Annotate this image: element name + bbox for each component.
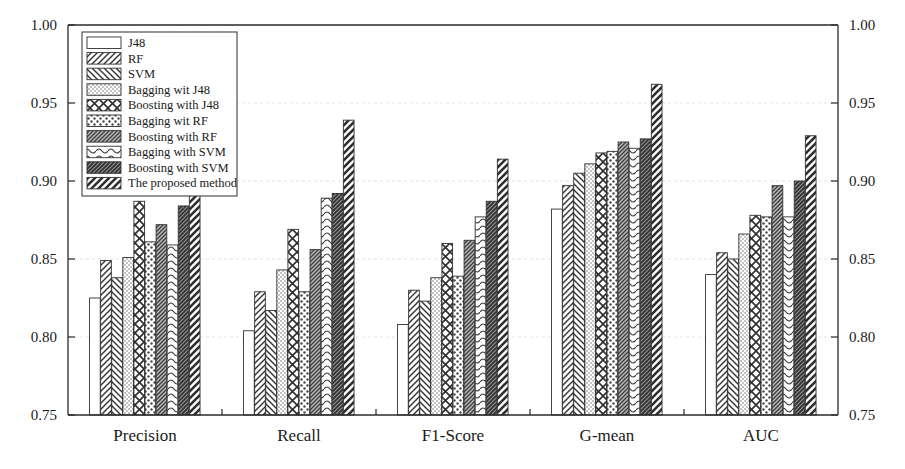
y-tick-label-right: 0.80 (849, 329, 875, 345)
bar (475, 217, 486, 415)
bar (706, 275, 717, 415)
bar (134, 201, 145, 415)
legend-label: The proposed method (128, 176, 238, 190)
legend-swatch (87, 68, 121, 80)
bar (750, 215, 761, 415)
bar (629, 148, 640, 415)
x-axis-category-label: AUC (743, 426, 779, 445)
y-tick-label-right: 0.75 (849, 407, 875, 423)
x-axis-category-label: Precision (113, 426, 177, 445)
y-tick-label-right: 0.85 (849, 251, 875, 267)
y-tick-label-left: 0.75 (31, 407, 57, 423)
bar (299, 292, 310, 415)
bar (563, 186, 574, 415)
bar (717, 253, 728, 415)
bar (310, 250, 321, 415)
bar (189, 172, 200, 415)
bar (574, 173, 585, 415)
bar (728, 259, 739, 415)
bar (431, 278, 442, 415)
chart-canvas: 0.750.800.850.900.951.00 0.750.800.850.9… (0, 0, 905, 469)
bar (343, 120, 354, 415)
y-tick-label-left: 0.90 (31, 173, 57, 189)
bar (167, 245, 178, 415)
bar (464, 240, 475, 415)
bar (486, 201, 497, 415)
legend-swatch (87, 177, 121, 189)
bar (332, 193, 343, 415)
bar (244, 331, 255, 415)
bar (640, 139, 651, 415)
bar (739, 234, 750, 415)
legend-label: J48 (128, 36, 145, 50)
y-tick-label-left: 0.85 (31, 251, 57, 267)
legend-swatch (87, 99, 121, 111)
legend-label: Boosting with RF (128, 130, 217, 144)
bar (409, 290, 420, 415)
bar (607, 151, 618, 415)
bar (497, 159, 508, 415)
bar (112, 278, 123, 415)
bar (398, 325, 409, 415)
legend-label: RF (128, 52, 143, 66)
legend-swatch (87, 37, 121, 49)
bar (761, 217, 772, 415)
legend-swatch (87, 115, 121, 127)
bar (255, 292, 266, 415)
legend-label: SVM (128, 67, 155, 81)
bar (420, 301, 431, 415)
legend-swatch (87, 84, 121, 96)
legend-swatch (87, 53, 121, 65)
legend-swatch (87, 131, 121, 143)
chart-legend: J48RFSVMBagging wit J48Boosting with J48… (82, 32, 238, 196)
legend-label: Bagging with SVM (128, 145, 226, 159)
y-tick-label-right: 0.95 (849, 95, 875, 111)
legend-label: Boosting with SVM (128, 161, 229, 175)
bar (123, 257, 134, 415)
bar (651, 84, 662, 415)
bar-chart-figure: 0.750.800.850.900.951.00 0.750.800.850.9… (0, 0, 905, 469)
x-axis-category-label: F1-Score (422, 426, 484, 445)
bar (266, 310, 277, 415)
y-tick-label-right: 0.90 (849, 173, 875, 189)
bar (145, 242, 156, 415)
bar (90, 298, 101, 415)
bar (101, 261, 112, 415)
y-tick-label-left: 0.80 (31, 329, 57, 345)
y-tick-label-left: 1.00 (31, 17, 57, 33)
bar (805, 136, 816, 415)
x-axis-category-label: Recall (277, 426, 321, 445)
y-tick-label-left: 0.95 (31, 95, 57, 111)
bar (552, 209, 563, 415)
bar (178, 206, 189, 415)
legend-label: Boosting with J48 (128, 98, 219, 112)
y-tick-label-right: 1.00 (849, 17, 875, 33)
x-axis-category-label: G-mean (580, 426, 635, 445)
legend-label: Bagging wit RF (128, 114, 208, 128)
bar (442, 243, 453, 415)
legend-swatch (87, 162, 121, 174)
bar (321, 198, 332, 415)
bar (585, 164, 596, 415)
bar (772, 186, 783, 415)
bar (277, 270, 288, 415)
legend-label: Bagging wit J48 (128, 83, 210, 97)
bar (596, 153, 607, 415)
bar (618, 142, 629, 415)
legend-swatch (87, 146, 121, 158)
bar (783, 217, 794, 415)
bar (156, 225, 167, 415)
bar (794, 181, 805, 415)
bar (453, 276, 464, 415)
bar (288, 229, 299, 415)
